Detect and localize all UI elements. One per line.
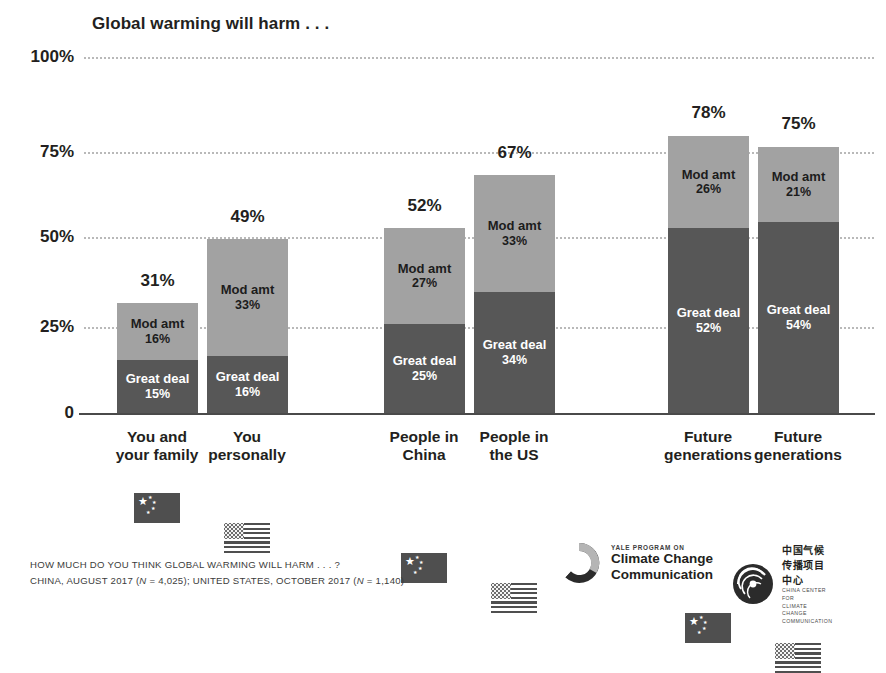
china-flag-icon: ★ ★ ★ ★ ★: [401, 553, 447, 583]
segment-mod-amt[interactable]: Mod amt 26%: [668, 136, 749, 228]
segment-mod-amt[interactable]: Mod amt 33%: [207, 239, 288, 356]
gridline-100: [84, 57, 874, 59]
us-flag-icon: [224, 523, 270, 553]
chart-title: Global warming will harm . . .: [92, 14, 329, 34]
segment-great-deal[interactable]: Great deal 54%: [758, 222, 839, 414]
bar-total-1: 49%: [207, 207, 288, 227]
x-label-3: People in the US: [459, 428, 569, 464]
segment-great-deal[interactable]: Great deal 34%: [474, 292, 555, 413]
china-center-name-en-1: CHINA CENTER FOR: [782, 587, 832, 603]
y-tick-0: 0: [65, 403, 74, 423]
china-center-name-cn: 中国气候传播项目中心: [782, 542, 832, 587]
flag-canton: [775, 643, 795, 659]
bar-total-2: 52%: [384, 196, 465, 216]
flag-canton: [491, 583, 511, 599]
china-center-logo-text: 中国气候传播项目中心 CHINA CENTER FOR CLIMATE CHAN…: [782, 542, 832, 626]
bar-future-generations-china[interactable]: Mod amt 26% Great deal 52%: [668, 136, 749, 413]
china-flag-icon: ★ ★ ★ ★ ★: [134, 493, 180, 523]
bar-future-generations-us[interactable]: Mod amt 21% Great deal 54%: [758, 147, 839, 413]
bar-people-in-the-us[interactable]: Mod amt 33% Great deal 34%: [474, 175, 555, 413]
yale-program-logo: YALE PROGRAM ON Climate Change Communica…: [556, 540, 713, 586]
segment-great-deal[interactable]: Great deal 52%: [668, 228, 749, 413]
source-note: HOW MUCH DO YOU THINK GLOBAL WARMING WIL…: [30, 557, 404, 589]
bar-total-5: 75%: [758, 114, 839, 134]
china-center-logo-mark-icon: [732, 563, 774, 605]
source-line-1: HOW MUCH DO YOU THINK GLOBAL WARMING WIL…: [30, 557, 404, 573]
segment-mod-amt[interactable]: Mod amt 21%: [758, 147, 839, 222]
bar-total-3: 67%: [474, 143, 555, 163]
us-flag-icon: [775, 643, 821, 673]
yale-tagline: YALE PROGRAM ON: [611, 544, 713, 551]
segment-great-deal[interactable]: Great deal 15%: [117, 360, 198, 413]
bar-people-in-china[interactable]: Mod amt 27% Great deal 25%: [384, 228, 465, 413]
segment-great-deal[interactable]: Great deal 16%: [207, 356, 288, 413]
y-axis: 100% 75% 50% 25% 0: [0, 57, 74, 413]
x-axis-baseline: [79, 413, 875, 415]
segment-great-deal[interactable]: Great deal 25%: [384, 324, 465, 413]
y-tick-75: 75%: [40, 142, 74, 162]
y-tick-25: 25%: [40, 317, 74, 337]
china-flag-icon: ★ ★ ★ ★ ★: [685, 613, 731, 643]
segment-mod-amt[interactable]: Mod amt 33%: [474, 175, 555, 292]
plot-area: 31% Mod amt 16% Great deal 15% 49% Mod a…: [84, 57, 874, 413]
x-label-5: Future generations: [743, 428, 853, 464]
yale-logo-mark-icon: [556, 540, 602, 586]
bar-total-0: 31%: [117, 271, 198, 291]
segment-mod-amt[interactable]: Mod amt 27%: [384, 228, 465, 324]
bar-you-and-your-family[interactable]: Mod amt 16% Great deal 15%: [117, 303, 198, 413]
bar-you-personally[interactable]: Mod amt 33% Great deal 16%: [207, 239, 288, 413]
segment-mod-amt[interactable]: Mod amt 16%: [117, 303, 198, 360]
x-label-1: You personally: [192, 428, 302, 464]
bar-total-4: 78%: [668, 103, 749, 123]
yale-logo-text: YALE PROGRAM ON Climate Change Communica…: [611, 544, 713, 581]
yale-name-line-1: Climate Change: [611, 551, 713, 566]
china-center-logo: 中国气候传播项目中心 CHINA CENTER FOR CLIMATE CHAN…: [732, 542, 832, 626]
flag-canton: [224, 523, 244, 539]
us-flag-icon: [491, 583, 537, 613]
y-tick-50: 50%: [40, 227, 74, 247]
y-tick-100: 100%: [31, 47, 74, 67]
yale-name-line-2: Communication: [611, 567, 713, 582]
source-line-2: CHINA, AUGUST 2017 (N = 4,025); UNITED S…: [30, 573, 404, 589]
china-center-name-en-2: CLIMATE CHANGE COMMUNICATION: [782, 603, 832, 626]
